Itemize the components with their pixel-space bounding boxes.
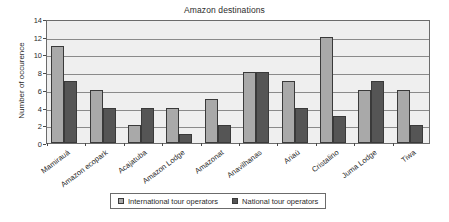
bar-group [354,21,392,143]
bar-group [201,21,239,143]
bar-group [85,21,123,143]
y-tick-label: 14 [0,16,42,25]
legend-item: National tour operators [232,197,318,206]
bar-national [141,108,154,143]
bars-layer [47,21,429,143]
bar-international [243,72,256,143]
legend-swatch-icon [118,198,124,204]
x-axis-tick-labels: MamirauáAmazon ecoparkAcajatubaAmazon Lo… [0,144,449,192]
bar-group [277,21,315,143]
bar-international [166,108,179,143]
chart-title: Amazon destinations [0,5,449,15]
bar-national [256,72,269,143]
bar-international [205,99,218,143]
bar-group [239,21,277,143]
bar-group [393,21,431,143]
bar-group [124,21,162,143]
bar-group [316,21,354,143]
y-tick-label: 10 [0,51,42,60]
bar-international [320,37,333,143]
bar-international [282,81,295,143]
y-tick-label: 4 [0,104,42,113]
bar-national [64,81,77,143]
bar-chart: Amazon destinations Number of occurence … [0,0,449,222]
bar-international [358,90,371,143]
bar-group [47,21,85,143]
bar-national [410,125,423,143]
chart-legend: International tour operatorsNational tou… [110,193,326,209]
legend-label: International tour operators [128,197,218,206]
bar-national [103,108,116,143]
bar-international [128,125,141,143]
bar-group [162,21,200,143]
y-tick-label: 6 [0,86,42,95]
y-tick-label: 2 [0,122,42,131]
bar-national [371,81,384,143]
legend-item: International tour operators [118,197,218,206]
plot-area [46,20,430,144]
bar-national [218,125,231,143]
bar-national [179,134,192,143]
bar-international [397,90,410,143]
bar-international [51,46,64,143]
bar-national [295,108,308,143]
bar-national [333,116,346,143]
y-tick-label: 8 [0,69,42,78]
legend-label: National tour operators [242,197,318,206]
y-tick-label: 12 [0,33,42,42]
bar-international [90,90,103,143]
legend-swatch-icon [232,198,238,204]
